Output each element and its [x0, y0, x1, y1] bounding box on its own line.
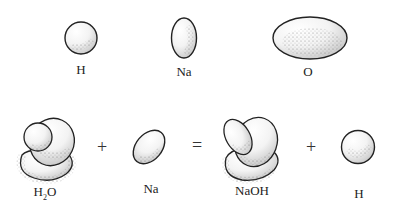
water-label: H2O [34, 184, 57, 202]
hydrogen-label: H [76, 62, 85, 78]
oxygen-label: O [303, 64, 312, 80]
equals-sign: = [192, 135, 202, 156]
hydrogen-atom-product [342, 131, 375, 164]
plus-sign-2: + [306, 137, 316, 158]
sodium-hydroxide-label: NaOH [235, 183, 269, 199]
sodium-label: Na [176, 64, 191, 80]
water-molecule [21, 111, 83, 180]
sodium-hydroxide-molecule [218, 111, 284, 180]
sodium-atom-reactant [127, 124, 171, 170]
plus-sign-1: + [97, 137, 107, 158]
hydrogen-product-label: H [354, 186, 363, 202]
oxygen-atom [273, 17, 347, 59]
hydrogen-atom [65, 22, 97, 54]
sodium-reactant-label: Na [143, 181, 158, 197]
sodium-atom [172, 18, 197, 58]
reaction-diagram [0, 0, 398, 206]
